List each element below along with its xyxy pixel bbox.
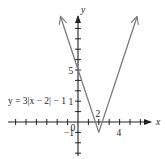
y-tick-label-1: 1: [69, 97, 74, 107]
x-tick-label-4: 4: [117, 128, 122, 138]
equation-label: y = 3|x − 2| − 1: [8, 96, 66, 106]
x-axis-label: x: [155, 117, 161, 127]
absolute-value-curve-left: [61, 17, 99, 133]
y-axis-label: y: [80, 5, 86, 15]
x-tick-label-2: 2: [96, 109, 101, 119]
y-tick-label-neg1: −1: [64, 128, 74, 138]
function-graph: y x 0 2 4 5 1 −1 y = 3|x − 2| − 1: [0, 0, 165, 159]
y-tick-label-5: 5: [69, 66, 74, 76]
absolute-value-curve-right: [99, 17, 137, 133]
